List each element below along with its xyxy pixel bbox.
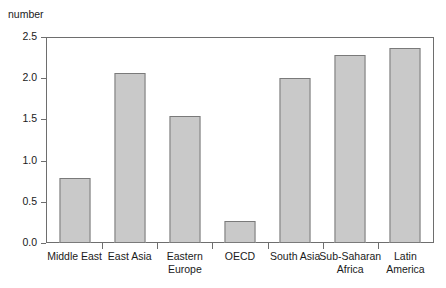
bar-slot <box>102 38 157 243</box>
x-tick-mark <box>268 243 269 249</box>
bar <box>335 55 366 243</box>
bar-slot <box>378 38 433 243</box>
bar <box>390 48 421 243</box>
x-tick-mark <box>212 243 213 249</box>
y-tick-mark <box>41 37 46 38</box>
bar-slot <box>268 38 323 243</box>
y-tick-label: 2.5 <box>22 30 37 43</box>
y-tick-mark <box>41 78 46 79</box>
y-tick-label: 1.0 <box>22 154 37 167</box>
y-tick-label: 1.5 <box>22 112 37 125</box>
x-tick-label-line: Europe <box>148 263 221 276</box>
y-tick-mark <box>41 161 46 162</box>
bar <box>59 178 90 243</box>
y-tick-label: 2.0 <box>22 71 37 84</box>
bar <box>224 221 255 243</box>
bars-layer <box>47 38 433 243</box>
y-tick-mark <box>41 202 46 203</box>
bar <box>280 78 311 243</box>
bar-slot <box>157 38 212 243</box>
bar-slot <box>323 38 378 243</box>
x-tick-label: LatinAmerica <box>369 250 442 276</box>
x-tick-label-line: Latin <box>369 250 442 263</box>
x-tick-mark <box>102 243 103 249</box>
bar <box>114 73 145 243</box>
bar-slot <box>47 38 102 243</box>
y-tick-label: 0.0 <box>22 236 37 249</box>
y-tick-mark <box>41 119 46 120</box>
x-tick-mark <box>157 243 158 249</box>
x-tick-label-line: America <box>369 263 442 276</box>
bar-chart: number 0.00.51.01.52.02.5 Middle EastEas… <box>0 0 446 288</box>
bar <box>169 116 200 243</box>
y-tick-label: 0.5 <box>22 195 37 208</box>
x-tick-mark <box>378 243 379 249</box>
bar-slot <box>212 38 267 243</box>
y-tick-mark <box>41 243 46 244</box>
y-axis-caption: number <box>8 8 44 20</box>
x-tick-mark <box>323 243 324 249</box>
